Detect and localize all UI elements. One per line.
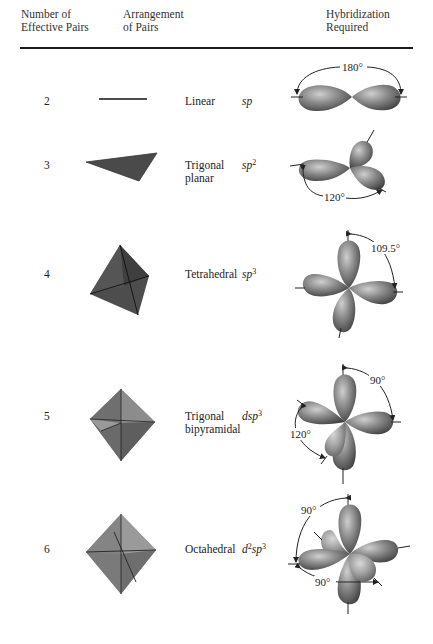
- header-arrangement: Arrangement of Pairs: [123, 8, 184, 34]
- angle-label: 120°: [290, 428, 311, 440]
- header-line: Effective Pairs: [21, 21, 89, 34]
- hyb-base: sp: [248, 410, 258, 422]
- header-effective-pairs: Number of Effective Pairs: [21, 8, 89, 34]
- hyb-base: sp: [242, 159, 252, 171]
- hyb-base: sp: [242, 268, 252, 280]
- hyb-superscript: 3: [252, 267, 256, 276]
- header-divider: [20, 47, 413, 49]
- trigonal-bipyramidal-geometry-icon: [85, 385, 160, 465]
- sp-orbital-diagram-icon: 180°: [285, 60, 420, 120]
- header-line: of Pairs: [123, 21, 184, 34]
- angle-label: 120°: [324, 191, 345, 203]
- effective-pairs-value: 5: [44, 410, 50, 423]
- hyb-superscript: 2: [252, 158, 256, 167]
- arrangement-line: Linear: [185, 95, 215, 108]
- tetrahedral-geometry-icon: [85, 240, 155, 320]
- angle-label: 180°: [342, 61, 363, 73]
- arrangement-line: Tetrahedral: [185, 268, 237, 281]
- angle-label: 90°: [315, 576, 330, 588]
- arrangement-line: Trigonal: [185, 410, 241, 423]
- sp2-orbital-diagram-icon: 120°: [290, 130, 415, 210]
- octahedral-geometry-icon: [80, 510, 160, 600]
- arrangement-line: planar: [185, 172, 224, 185]
- hybridization-label: sp3: [242, 268, 256, 281]
- effective-pairs-value: 4: [44, 268, 50, 281]
- d2sp3-orbital-diagram-icon: 90° 90°: [280, 490, 420, 630]
- arrangement-label: Trigonal planar: [185, 159, 224, 185]
- hyb-superscript: 3: [258, 409, 262, 418]
- arrangement-label: Trigonal bipyramidal: [185, 410, 241, 436]
- hyb-base: sp: [252, 543, 262, 555]
- angle-label: 109.5°: [371, 242, 400, 254]
- arrangement-line: Trigonal: [185, 159, 224, 172]
- arrangement-line: Octahedral: [185, 543, 235, 556]
- dsp3-orbital-diagram-icon: 90° 120°: [275, 360, 420, 490]
- effective-pairs-value: 3: [44, 159, 50, 172]
- sp3-orbital-diagram-icon: 109.5°: [295, 230, 420, 345]
- hybridization-label: d2sp3: [242, 543, 266, 556]
- effective-pairs-value: 2: [44, 95, 50, 108]
- hyb-superscript: 3: [262, 542, 266, 551]
- angle-label: 90°: [301, 504, 316, 516]
- hybridization-label: dsp3: [242, 410, 262, 423]
- angle-label: 90°: [370, 374, 385, 386]
- hyb-base: sp: [242, 95, 252, 107]
- hybridization-label: sp2: [242, 159, 256, 172]
- effective-pairs-value: 6: [44, 543, 50, 556]
- linear-geometry-icon: [95, 96, 150, 102]
- arrangement-line: bipyramidal: [185, 423, 241, 436]
- trigonal-planar-geometry-icon: [80, 148, 160, 188]
- arrangement-label: Linear: [185, 95, 215, 108]
- arrangement-label: Octahedral: [185, 543, 235, 556]
- header-line: Required: [326, 21, 390, 34]
- header-line: Number of: [21, 8, 89, 21]
- header-hybridization: Hybridization Required: [326, 8, 390, 34]
- header-line: Hybridization: [326, 8, 390, 21]
- header-line: Arrangement: [123, 8, 184, 21]
- arrangement-label: Tetrahedral: [185, 268, 237, 281]
- hybridization-label: sp: [242, 95, 252, 108]
